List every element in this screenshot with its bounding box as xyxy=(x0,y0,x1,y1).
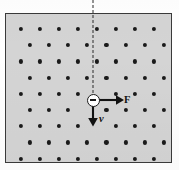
negative-charge-marker xyxy=(87,94,100,107)
magnetic-field-region xyxy=(5,13,172,163)
velocity-vector-label: v xyxy=(99,114,104,125)
force-vector-label: F xyxy=(124,95,130,106)
minus-sign-icon xyxy=(90,99,96,100)
dashed-reference-line xyxy=(93,0,94,98)
physics-diagram-figure: F v xyxy=(0,0,179,170)
